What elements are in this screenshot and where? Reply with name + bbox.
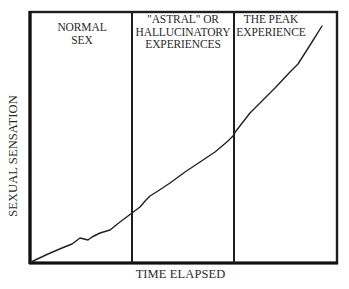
x-axis-label: TIME ELAPSED — [0, 267, 349, 282]
region-label-line: THE PEAK — [235, 13, 307, 26]
region-label-peak-experience: THE PEAK EXPERIENCE — [235, 13, 307, 38]
region-label-line: SEX — [33, 34, 131, 47]
region-label-line: EXPERIENCES — [132, 38, 234, 51]
region-label-line: NORMAL — [33, 21, 131, 34]
region-label-line: "ASTRAL" OR — [132, 13, 234, 26]
y-axis-label: SEXUAL SENSATION — [6, 95, 21, 217]
region-label-line: HALLUCINATORY — [132, 26, 234, 39]
region-label-line: EXPERIENCE — [235, 26, 307, 39]
region-label-normal-sex: NORMAL SEX — [33, 21, 131, 46]
region-label-astral: "ASTRAL" OR HALLUCINATORY EXPERIENCES — [132, 13, 234, 51]
sensation-curve — [31, 26, 322, 262]
